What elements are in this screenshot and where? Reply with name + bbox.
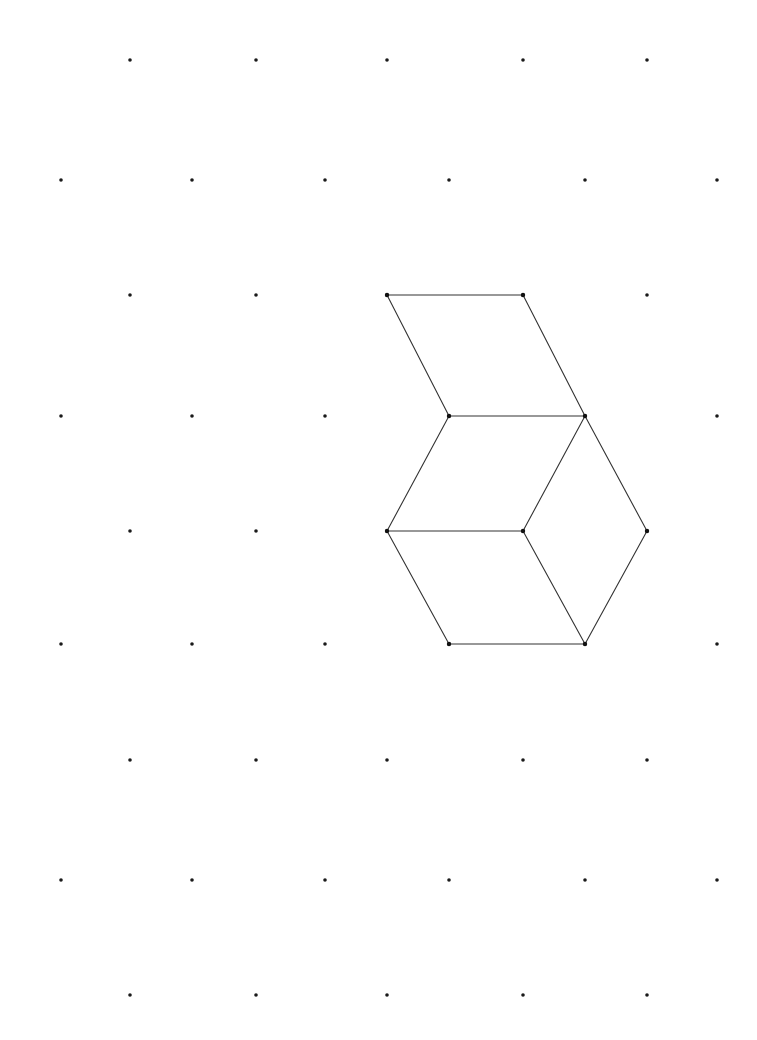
grid-dot <box>254 58 258 62</box>
grid-dot <box>385 758 389 762</box>
grid-dot <box>385 993 389 997</box>
grid-dot <box>447 878 451 882</box>
grid-dot <box>715 642 719 646</box>
grid-dot <box>128 993 132 997</box>
grid-dot <box>190 878 194 882</box>
grid-dot <box>128 758 132 762</box>
grid-dot <box>254 993 258 997</box>
vertex-B <box>521 293 525 297</box>
grid-dot <box>715 878 719 882</box>
grid-dot <box>645 293 649 297</box>
grid-dot <box>447 178 451 182</box>
grid-dot <box>190 414 194 418</box>
grid-dot <box>385 58 389 62</box>
grid-dot <box>521 58 525 62</box>
grid-dot <box>59 414 63 418</box>
grid-dot <box>59 178 63 182</box>
grid-dot <box>323 178 327 182</box>
grid-dot <box>715 414 719 418</box>
grid-dot <box>128 529 132 533</box>
grid-dot <box>254 529 258 533</box>
grid-dot <box>583 878 587 882</box>
grid-dot <box>583 178 587 182</box>
vertex-D <box>583 414 587 418</box>
grid-dot <box>254 758 258 762</box>
grid-dot <box>254 293 258 297</box>
grid-dot <box>190 178 194 182</box>
vertex-A <box>385 293 389 297</box>
grid-dot <box>323 878 327 882</box>
grid-dot <box>128 58 132 62</box>
grid-dot <box>521 758 525 762</box>
dot-grid-canvas <box>0 0 757 1040</box>
grid-dot <box>323 414 327 418</box>
vertex-E <box>385 529 389 533</box>
grid-dot <box>645 758 649 762</box>
grid-dot <box>715 178 719 182</box>
grid-dot <box>645 993 649 997</box>
grid-dot <box>521 993 525 997</box>
background <box>0 0 757 1040</box>
grid-dot <box>128 293 132 297</box>
grid-dot <box>190 642 194 646</box>
vertex-F <box>521 529 525 533</box>
grid-dot <box>323 642 327 646</box>
grid-dot <box>59 878 63 882</box>
grid-dot <box>59 642 63 646</box>
grid-dot <box>645 58 649 62</box>
vertex-G <box>645 529 649 533</box>
vertex-C <box>447 414 451 418</box>
vertex-H <box>447 642 451 646</box>
vertex-I <box>583 642 587 646</box>
